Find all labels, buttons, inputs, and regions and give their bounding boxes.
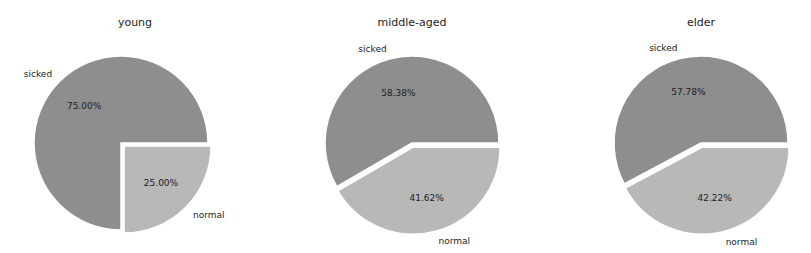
- slice-category-label: sicked: [358, 44, 386, 54]
- slice-percent-label: 58.38%: [381, 88, 416, 98]
- slice-category-label: normal: [438, 236, 470, 246]
- slice-percent-label: 41.62%: [410, 193, 445, 203]
- pie-slice-normal: [124, 146, 211, 233]
- pie-panel-elder: elder 42.22%normal57.78%sicked: [566, 0, 811, 253]
- slice-percent-label: 57.78%: [671, 87, 706, 97]
- slice-percent-label: 42.22%: [698, 193, 733, 203]
- slice-category-label: sicked: [649, 43, 677, 53]
- pie-panel-middle-aged: middle-aged 41.62%normal58.38%sicked: [277, 0, 547, 253]
- pie-chart: 25.00%normal75.00%sicked: [0, 0, 270, 253]
- slice-percent-label: 25.00%: [144, 178, 179, 188]
- pie-panel-young: young 25.00%normal75.00%sicked: [0, 0, 270, 253]
- pie-chart: 42.22%normal57.78%sicked: [566, 0, 811, 253]
- slice-category-label: normal: [726, 237, 758, 247]
- pie-chart: 41.62%normal58.38%sicked: [277, 0, 547, 253]
- slice-category-label: sicked: [24, 69, 52, 79]
- slice-category-label: normal: [193, 210, 225, 220]
- slice-percent-label: 75.00%: [67, 101, 102, 111]
